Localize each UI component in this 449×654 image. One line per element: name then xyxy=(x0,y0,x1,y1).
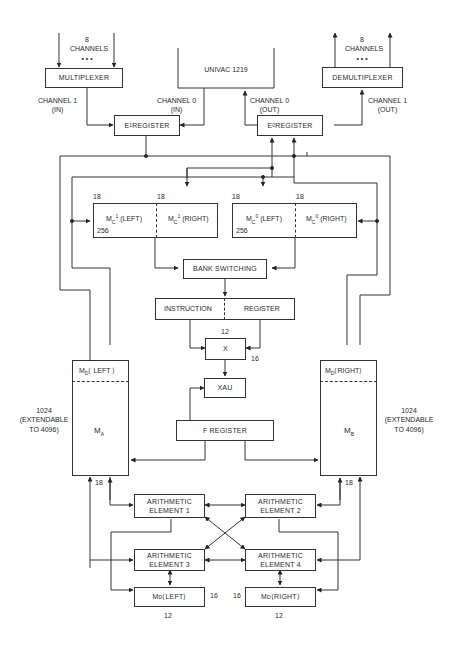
x-top-width: 12 xyxy=(221,328,229,335)
f-register-box: F REGISTER xyxy=(176,420,274,441)
mux-channel-count: 8CHANNELS• • • xyxy=(70,35,104,63)
ma-label: MA xyxy=(94,426,104,437)
width-label: 18 xyxy=(296,193,304,200)
mc0-right-label: MC0 (RIGHT) xyxy=(306,213,347,225)
md-right-side-width: 16 xyxy=(233,592,241,599)
demultiplexer-box: DEMULTIPLEXER xyxy=(322,67,403,88)
arithmetic-element-3: ARITHMETICELEMENT 3 xyxy=(134,549,205,571)
ma-header-divider xyxy=(72,381,129,382)
ma-memory-box xyxy=(72,360,129,476)
e0-register-box: E0 REGISTER xyxy=(257,115,323,136)
depth-label: 256 xyxy=(236,227,248,234)
mb-label: MB xyxy=(344,426,354,437)
arithmetic-element-2: ARITHMETICELEMENT 2 xyxy=(245,494,316,518)
mb-bottom-width: 18 xyxy=(345,479,353,486)
channel0-out-label: CHANNEL 0(OUT) xyxy=(250,96,289,115)
ma-bottom-width: 18 xyxy=(95,479,103,486)
demux-channel-count: 8CHANNELS• • • xyxy=(345,35,379,63)
md-left-side-width: 16 xyxy=(210,592,218,599)
md-right-header: MD⟨RIGHT⟩ xyxy=(325,367,362,376)
md-left-bottom-width: 12 xyxy=(164,612,172,619)
mb-memory-box xyxy=(320,360,377,476)
width-label: 18 xyxy=(93,193,101,200)
instruction-label: INSTRUCTION xyxy=(164,305,212,312)
x-right-width: 16 xyxy=(251,355,259,362)
md-left-box: MD⟨ LEFT ⟩ xyxy=(134,587,205,607)
univac-label: UNIVAC 1219 xyxy=(178,65,274,74)
mb-header-divider xyxy=(320,381,377,382)
bank-switching-box: BANK SWITCHING xyxy=(183,259,267,279)
width-label: 18 xyxy=(232,193,240,200)
width-label: 18 xyxy=(157,193,165,200)
instruction-register-divider xyxy=(224,298,225,320)
mc1-right-label: MC1 (RIGHT) xyxy=(168,213,209,225)
mc0-split-divider xyxy=(295,203,296,238)
e1-register-box: E1 REGISTER xyxy=(114,115,180,136)
multiplexer-box: MULTIPLEXER xyxy=(45,68,123,88)
ma-size-label: 1024(EXTENDABLETO 4096) xyxy=(14,406,74,434)
arithmetic-element-1: ARITHMETICELEMENT 1 xyxy=(134,494,205,518)
mb-size-label: 1024(EXTENDABLETO 4096) xyxy=(379,406,439,434)
depth-label: 256 xyxy=(97,227,109,234)
channel1-in-label: CHANNEL 1(IN) xyxy=(38,96,77,115)
x-register-box: X xyxy=(205,338,246,360)
mc1-left-label: MC1 (LEFT) xyxy=(106,213,142,225)
md-right-box: MD⟨RIGHT⟩ xyxy=(245,587,316,607)
mc0-left-label: MC0 (LEFT) xyxy=(246,213,282,225)
channel1-out-label: CHANNEL 1(OUT) xyxy=(368,96,407,115)
md-left-header: MD⟨ LEFT ⟩ xyxy=(79,367,115,376)
channel0-in-label: CHANNEL 0(IN) xyxy=(157,96,196,115)
xau-box: XAU xyxy=(204,378,246,398)
md-right-bottom-width: 12 xyxy=(275,612,283,619)
mc1-split-divider xyxy=(156,203,157,238)
register-label: REGISTER xyxy=(244,305,280,312)
arithmetic-element-4: ARITHMETICELEMENT 4 xyxy=(245,549,316,571)
